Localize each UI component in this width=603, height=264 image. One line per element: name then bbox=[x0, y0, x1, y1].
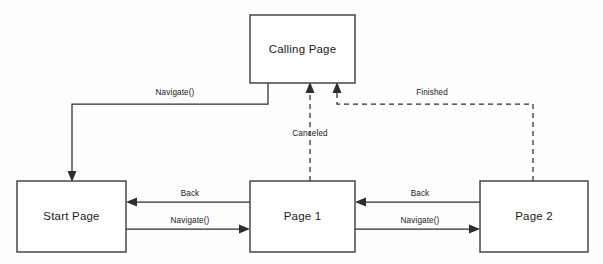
edge-label-finished: Finished bbox=[416, 88, 448, 97]
edge-navigate-start-to-page1: Navigate() bbox=[126, 216, 250, 233]
diagram-canvas: Navigate() Canceled Finished Back Naviga… bbox=[0, 0, 603, 264]
navigation-state-diagram: Navigate() Canceled Finished Back Naviga… bbox=[0, 0, 603, 264]
edge-label-navigate-start-to-page1: Navigate() bbox=[171, 216, 210, 225]
arrowhead-right-page1-navigate bbox=[239, 225, 250, 234]
arrowhead-left-start-page-back bbox=[126, 198, 137, 207]
edge-canceled-page1-to-calling: Canceled bbox=[292, 82, 328, 181]
node-start-page[interactable]: Start Page bbox=[17, 181, 126, 252]
edge-label-navigate-page1-to-page2: Navigate() bbox=[401, 216, 440, 225]
edge-finished-page2-to-calling: Finished bbox=[333, 82, 534, 181]
edge-label-back-page2-to-page1: Back bbox=[411, 189, 430, 198]
node-page-1-label: Page 1 bbox=[284, 210, 322, 222]
arrowhead-right-page2-navigate bbox=[469, 225, 480, 234]
node-start-page-label: Start Page bbox=[43, 210, 99, 222]
edge-label-back-page1-to-start: Back bbox=[181, 189, 200, 198]
arrowhead-left-page1-back bbox=[355, 198, 366, 207]
node-calling-page[interactable]: Calling Page bbox=[250, 15, 355, 83]
edge-navigate-page1-to-page2: Navigate() bbox=[355, 216, 480, 233]
node-calling-page-label: Calling Page bbox=[269, 43, 337, 55]
edge-label-navigate-calling-to-start: Navigate() bbox=[156, 88, 195, 97]
edge-back-page1-to-start: Back bbox=[126, 189, 250, 206]
edge-navigate-calling-to-start: Navigate() bbox=[68, 83, 269, 182]
node-page-1[interactable]: Page 1 bbox=[250, 181, 355, 252]
edge-label-canceled: Canceled bbox=[292, 129, 328, 138]
node-page-2-label: Page 2 bbox=[515, 210, 553, 222]
node-page-2[interactable]: Page 2 bbox=[480, 181, 588, 252]
edge-back-page2-to-page1: Back bbox=[355, 189, 480, 206]
